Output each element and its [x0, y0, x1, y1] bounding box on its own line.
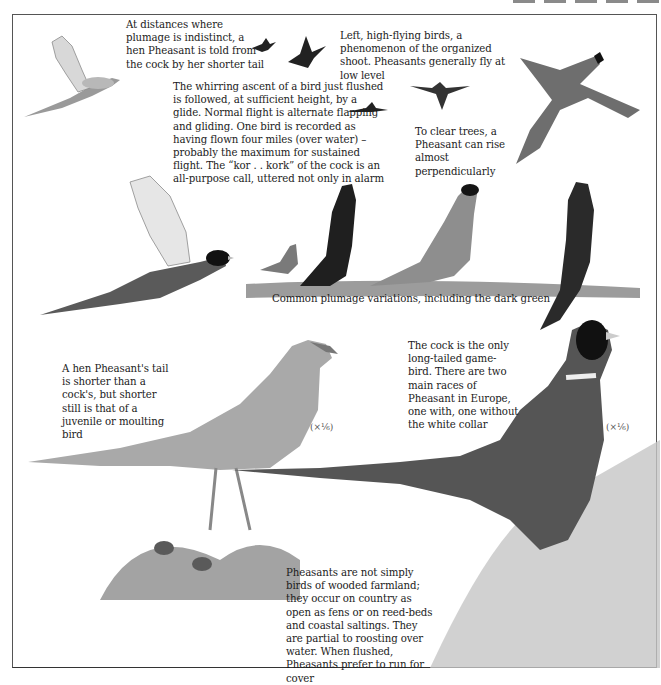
- hen-scale-label: (×¹⁄₆): [310, 422, 333, 432]
- plumage-group-illustration: [246, 182, 640, 330]
- caption-habitat: Pheasants are not simply birds of wooded…: [286, 566, 434, 685]
- caption-hen-distance: At distances where plumage is indistinct…: [126, 18, 264, 71]
- cock-rising-illustration: [516, 52, 640, 164]
- caption-hen-tail: A hen Pheasant's tail is shorter than a …: [62, 362, 172, 441]
- caption-flight: The whirring ascent of a bird just flush…: [173, 80, 387, 186]
- caption-clear-trees: To clear trees, a Pheasant can rise almo…: [415, 125, 517, 178]
- caption-high-flying: Left, high-flying birds, a phenomenon of…: [340, 29, 520, 82]
- caption-plumage-variations: Common plumage variations, including the…: [272, 292, 592, 305]
- hen-in-flight-illustration: [24, 36, 120, 117]
- cock-scale-label: (×¹⁄₆): [606, 422, 629, 432]
- distant-glider-illustration: [410, 82, 470, 110]
- caption-cock: The cock is the only long-tailed game-bi…: [408, 339, 520, 431]
- cock-flying-illustration: [40, 176, 234, 315]
